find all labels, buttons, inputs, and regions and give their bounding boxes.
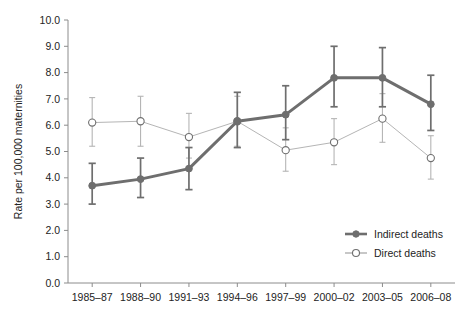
data-point bbox=[137, 118, 144, 125]
y-axis-title: Rate per 100,000 maternities bbox=[12, 84, 24, 219]
legend-item: Direct deaths bbox=[345, 247, 436, 259]
y-axis-tick-label: 3.0 bbox=[45, 198, 60, 210]
x-axis-tick-label: 1997–99 bbox=[265, 291, 306, 303]
y-axis-tick-label: 9.0 bbox=[45, 40, 60, 52]
data-point bbox=[234, 118, 241, 125]
data-point bbox=[89, 182, 96, 189]
data-point bbox=[379, 74, 386, 81]
legend-item: Indirect deaths bbox=[345, 228, 443, 240]
legend-marker bbox=[353, 250, 360, 257]
legend-label: Indirect deaths bbox=[374, 228, 443, 240]
x-axis-tick-label: 2003–05 bbox=[362, 291, 403, 303]
legend-label: Direct deaths bbox=[374, 247, 436, 259]
data-point bbox=[137, 176, 144, 183]
data-point bbox=[282, 147, 289, 154]
legend-marker bbox=[353, 231, 359, 237]
data-point bbox=[379, 115, 386, 122]
chart-figure: 0.01.02.03.04.05.06.07.08.09.010.01985–8… bbox=[0, 0, 465, 320]
data-point bbox=[186, 165, 193, 172]
data-point bbox=[185, 133, 192, 140]
x-axis-tick-label: 1994–96 bbox=[217, 291, 258, 303]
data-point bbox=[427, 101, 434, 108]
x-axis-tick-label: 2000–02 bbox=[314, 291, 355, 303]
x-axis-tick-label: 1985–87 bbox=[72, 291, 113, 303]
x-axis-tick-label: 1988–90 bbox=[120, 291, 161, 303]
data-point bbox=[331, 74, 338, 81]
data-point bbox=[427, 154, 434, 161]
y-axis-tick-label: 8.0 bbox=[45, 66, 60, 78]
x-axis-tick-label: 1991–93 bbox=[168, 291, 209, 303]
y-axis-tick-label: 6.0 bbox=[45, 119, 60, 131]
x-axis-tick-label: 2006–08 bbox=[410, 291, 451, 303]
y-axis-tick-label: 1.0 bbox=[45, 250, 60, 262]
y-axis-tick-label: 5.0 bbox=[45, 145, 60, 157]
y-axis-tick-label: 2.0 bbox=[45, 224, 60, 236]
data-point bbox=[282, 111, 289, 118]
data-point bbox=[330, 139, 337, 146]
data-point bbox=[89, 119, 96, 126]
line-chart-svg: 0.01.02.03.04.05.06.07.08.09.010.01985–8… bbox=[0, 0, 465, 320]
y-axis-tick-label: 10.0 bbox=[40, 14, 61, 26]
y-axis-tick-label: 7.0 bbox=[45, 93, 60, 105]
y-axis-tick-label: 0.0 bbox=[45, 277, 60, 289]
y-axis-tick-label: 4.0 bbox=[45, 171, 60, 183]
chart-legend: Indirect deathsDirect deaths bbox=[345, 228, 443, 259]
